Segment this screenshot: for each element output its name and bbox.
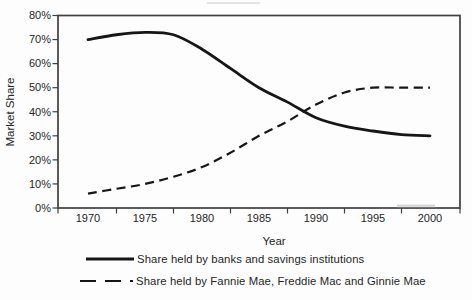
y-tick-label: 80%: [29, 9, 51, 21]
chart-figure: 0%10%20%30%40%50%60%70%80% 1970197519801…: [0, 0, 472, 300]
y-tick-label: 40%: [29, 106, 51, 118]
plot-area: [58, 16, 460, 209]
x-tick-label: 1970: [76, 212, 100, 224]
series-line-banks: [88, 32, 430, 135]
y-tick-label: 30%: [29, 130, 51, 142]
legend-label-gse: Share held by Fannie Mae, Freddie Mac an…: [136, 275, 426, 287]
y-tick-label: 70%: [29, 33, 51, 45]
y-tick-label: 20%: [29, 154, 51, 166]
y-tick-label: 50%: [29, 81, 51, 93]
x-tick-label: 1975: [133, 212, 157, 224]
legend-label-banks: Share held by banks and savings institut…: [137, 253, 365, 265]
x-tick-label: 2000: [418, 212, 442, 224]
x-tick-label: 1980: [190, 212, 214, 224]
x-tick-label: 1985: [247, 212, 271, 224]
x-tick-label: 1990: [304, 212, 328, 224]
y-axis: 0%10%20%30%40%50%60%70%80%: [29, 9, 58, 214]
x-axis: 1970197519801985199019952000: [58, 208, 460, 224]
legend: Share held by banks and savings institut…: [80, 253, 426, 287]
scan-artifact-top: [207, 2, 260, 4]
scan-artifact-axis: [397, 205, 435, 208]
series-lines: [88, 32, 430, 193]
y-tick-label: 60%: [29, 57, 51, 69]
series-line-gse: [88, 87, 430, 193]
x-tick-label: 1995: [361, 212, 385, 224]
market-share-line-chart: 0%10%20%30%40%50%60%70%80% 1970197519801…: [0, 0, 472, 300]
y-tick-label: 0%: [35, 202, 51, 214]
y-axis-title: Market Share: [4, 77, 16, 146]
y-tick-label: 10%: [29, 178, 51, 190]
x-axis-title: Year: [262, 235, 285, 247]
